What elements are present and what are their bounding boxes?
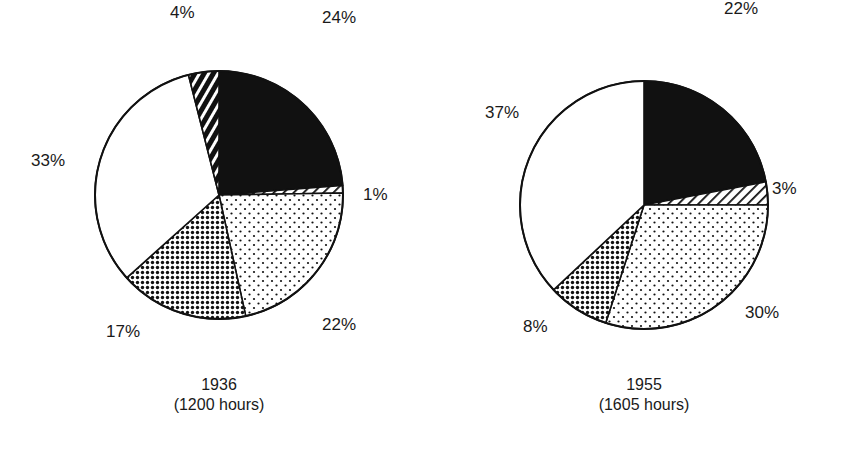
chart-title: 1955: [564, 375, 724, 395]
slice-label: 4%: [170, 4, 195, 21]
slice-label: 22%: [322, 316, 356, 333]
chart-title: 1936: [139, 375, 299, 395]
slice-label: 1%: [363, 186, 388, 203]
pie-1955-caption: 1955 (1605 hours): [564, 375, 724, 415]
slice-label: 17%: [106, 323, 140, 340]
pie-1955: [520, 81, 768, 329]
pie-1936-caption: 1936 (1200 hours): [139, 375, 299, 415]
figure: 24% 1% 22% 17% 33% 4% 22% 3% 30% 8% 37% …: [0, 0, 852, 449]
pie-1936: [95, 71, 343, 319]
chart-subtitle: (1605 hours): [564, 395, 724, 415]
slice-label: 24%: [322, 9, 356, 26]
slice-label: 3%: [772, 180, 797, 197]
pie-charts: [0, 0, 852, 449]
slice-label: 30%: [745, 304, 779, 321]
slice-label: 37%: [485, 104, 519, 121]
slice-label: 8%: [523, 318, 548, 335]
pie-slice: [219, 71, 343, 195]
slice-label: 22%: [724, 0, 758, 17]
chart-subtitle: (1200 hours): [139, 395, 299, 415]
slice-label: 33%: [31, 152, 65, 169]
